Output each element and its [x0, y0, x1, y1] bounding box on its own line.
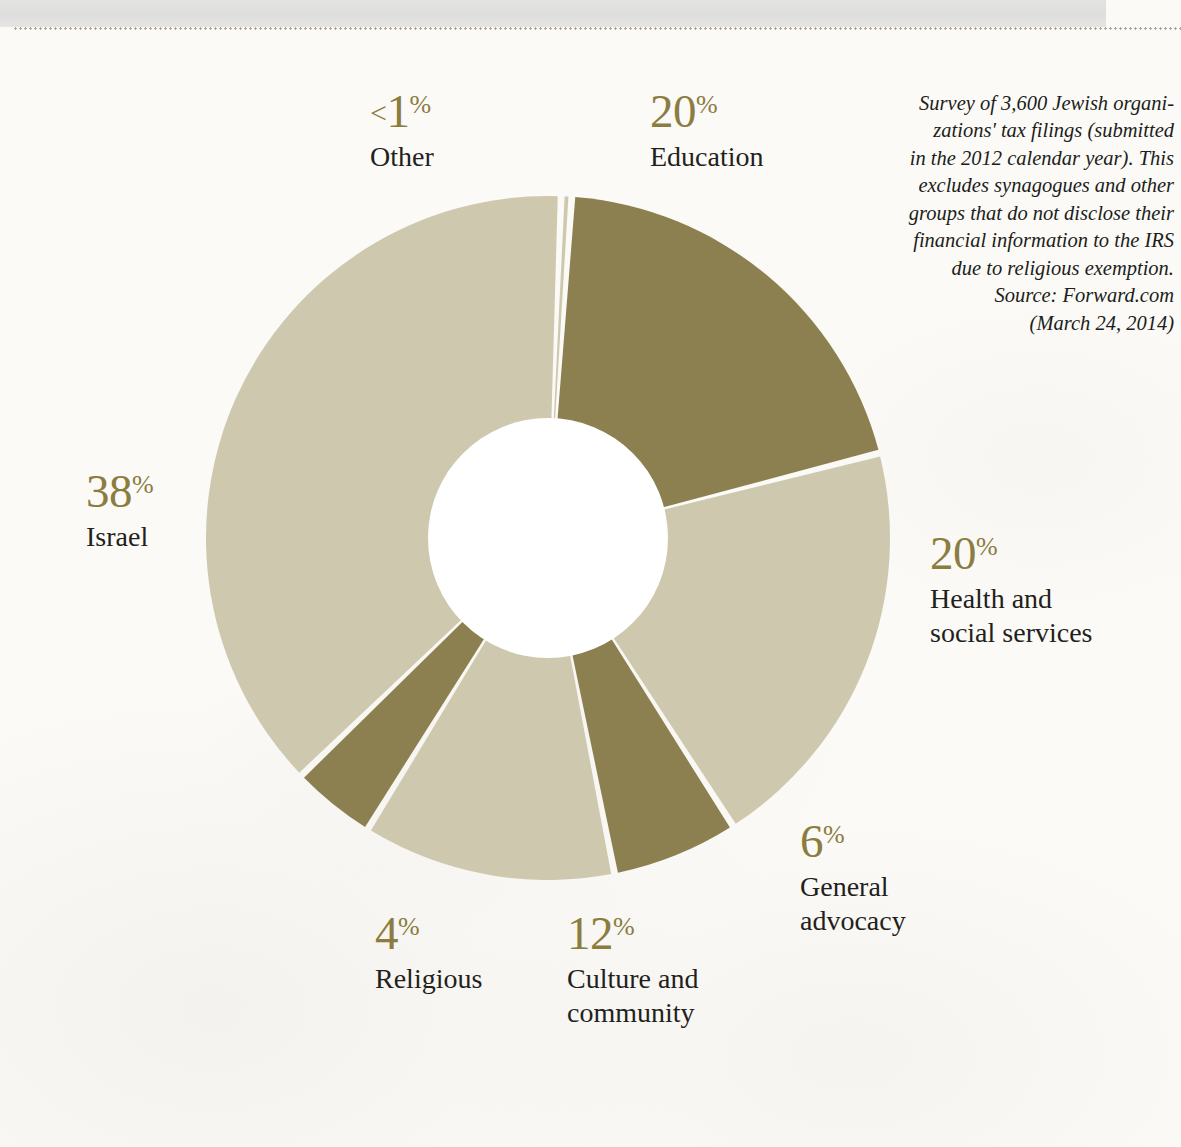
slice-label-other: <1% Other: [370, 88, 434, 173]
percent-sign-religious: %: [398, 912, 420, 941]
source-note: Survey of 3,600 Jewish organi- zations' …: [826, 90, 1174, 337]
slice-label-education: 20% Education: [650, 88, 764, 173]
percent-sign-advocacy: %: [823, 820, 845, 849]
source-note-line-3: in the 2012 calendar year). This: [826, 145, 1174, 172]
source-note-line-7: due to religious exemption.: [826, 255, 1174, 282]
scan-header-band: [0, 0, 1106, 27]
slice-percent-religious: 4%: [375, 910, 482, 957]
slice-label-israel: 38% Israel: [86, 468, 154, 553]
source-note-line-1: Survey of 3,600 Jewish organi-: [826, 90, 1174, 117]
slice-caption-health-line2: social services: [930, 616, 1093, 649]
percent-sign-israel: %: [132, 470, 154, 499]
slice-label-general-advocacy: 6% General advocacy: [800, 818, 906, 937]
slice-label-culture-and-community: 12% Culture and community: [567, 910, 698, 1029]
source-note-line-4: excludes synagogues and other: [826, 172, 1174, 199]
slice-percent-value-health: 20: [930, 527, 976, 579]
percent-sign-health: %: [976, 532, 998, 561]
percent-sign-education: %: [696, 90, 718, 119]
donut-chart-svg: [206, 196, 890, 880]
slice-percent-value-other: 1: [386, 85, 409, 137]
slice-percent-health: 20%: [930, 530, 1093, 577]
slice-caption-religious: Religious: [375, 962, 482, 995]
slice-caption-advocacy-line2: advocacy: [800, 904, 906, 937]
donut-chart: [206, 196, 890, 880]
slice-label-religious: 4% Religious: [375, 910, 482, 995]
slice-caption-other: Other: [370, 140, 434, 173]
slice-caption-israel: Israel: [86, 520, 154, 553]
slice-percent-value-religious: 4: [375, 907, 398, 959]
slice-percent-culture: 12%: [567, 910, 698, 957]
slice-caption-health-line1: Health and: [930, 582, 1093, 615]
slice-label-health-and-social-services: 20% Health and social services: [930, 530, 1093, 649]
less-than-sign: <: [370, 96, 386, 129]
slice-percent-education: 20%: [650, 88, 764, 135]
percent-sign-culture: %: [613, 912, 635, 941]
source-note-line-2: zations' tax filings (submitted: [826, 117, 1174, 144]
source-note-line-6: financial information to the IRS: [826, 227, 1174, 254]
slice-caption-advocacy-line1: General: [800, 870, 906, 903]
dotted-divider-rule: [14, 27, 1181, 30]
slice-percent-israel: 38%: [86, 468, 154, 515]
slice-percent-value-advocacy: 6: [800, 815, 823, 867]
slice-percent-value-israel: 38: [86, 465, 132, 517]
slice-caption-education: Education: [650, 140, 764, 173]
percent-sign-other: %: [409, 90, 431, 119]
slice-caption-culture-line1: Culture and: [567, 962, 698, 995]
source-note-line-8: Source: Forward.com: [826, 282, 1174, 309]
slice-percent-advocacy: 6%: [800, 818, 906, 865]
slice-caption-culture-line2: community: [567, 996, 698, 1029]
donut-center-hole: [428, 418, 668, 658]
slice-percent-other: <1%: [370, 88, 434, 135]
source-note-line-5: groups that do not disclose their: [826, 200, 1174, 227]
source-note-line-9: (March 24, 2014): [826, 310, 1174, 337]
slice-percent-value-education: 20: [650, 85, 696, 137]
slice-percent-value-culture: 12: [567, 907, 613, 959]
